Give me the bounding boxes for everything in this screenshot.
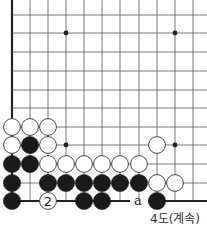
black-stone bbox=[93, 174, 110, 191]
white-stone bbox=[149, 137, 166, 154]
black-stone bbox=[3, 155, 20, 172]
black-stone bbox=[39, 174, 56, 191]
point-marker-label: a bbox=[134, 193, 142, 208]
white-stone bbox=[4, 119, 21, 136]
white-stone bbox=[167, 175, 184, 192]
star-point bbox=[173, 143, 178, 148]
black-stone bbox=[93, 192, 110, 209]
black-stone bbox=[3, 192, 20, 209]
white-stone bbox=[58, 156, 75, 173]
star-point bbox=[64, 31, 69, 36]
stone-move-number: 2 bbox=[44, 194, 52, 209]
star-point bbox=[173, 31, 178, 36]
star-point bbox=[64, 143, 69, 148]
black-stone bbox=[111, 174, 128, 191]
white-stone bbox=[76, 156, 93, 173]
black-stone bbox=[75, 192, 92, 209]
black-stone bbox=[148, 192, 165, 209]
white-stone bbox=[40, 119, 57, 136]
black-stone bbox=[21, 155, 38, 172]
black-stone bbox=[3, 174, 20, 191]
white-stone bbox=[131, 156, 148, 173]
white-stone bbox=[40, 137, 57, 154]
white-stone bbox=[40, 156, 57, 173]
black-stone bbox=[21, 136, 38, 153]
white-stone bbox=[94, 156, 111, 173]
black-stone bbox=[130, 174, 147, 191]
white-stone bbox=[149, 175, 166, 192]
diagram-caption: 4도(계속) bbox=[150, 209, 200, 226]
white-stone bbox=[112, 156, 129, 173]
white-stone bbox=[22, 119, 39, 136]
go-board: 2a bbox=[0, 0, 207, 228]
black-stone bbox=[75, 174, 92, 191]
black-stone bbox=[57, 174, 74, 191]
go-diagram: 2a 4도(계속) bbox=[0, 0, 207, 228]
white-stone bbox=[4, 137, 21, 154]
